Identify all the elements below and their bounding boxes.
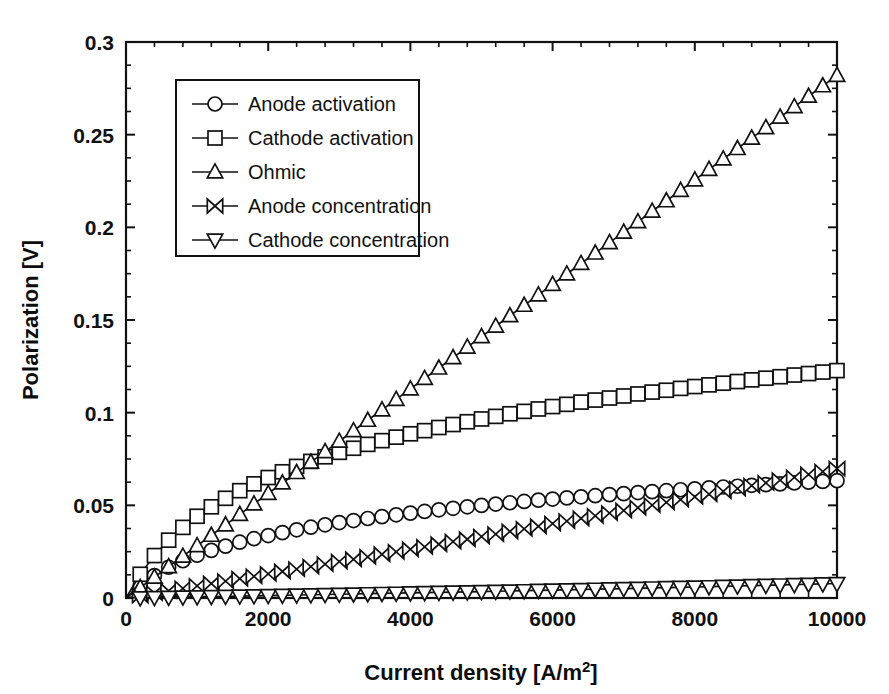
data-marker xyxy=(489,497,503,511)
data-marker xyxy=(617,487,631,501)
data-marker xyxy=(389,430,403,444)
data-marker xyxy=(759,371,773,385)
data-marker xyxy=(204,500,218,514)
y-tick-label: 0.25 xyxy=(73,124,114,147)
x-tick-label: 0 xyxy=(120,607,132,630)
data-marker xyxy=(659,484,673,498)
data-marker xyxy=(787,368,801,382)
x-tick-label: 4000 xyxy=(387,607,434,630)
legend-label: Cathode concentration xyxy=(248,229,449,251)
data-marker xyxy=(702,378,716,392)
data-marker xyxy=(375,434,389,448)
data-marker xyxy=(730,375,744,389)
data-marker xyxy=(489,409,503,423)
data-marker xyxy=(830,364,844,378)
data-marker xyxy=(517,494,531,508)
data-marker xyxy=(631,387,645,401)
x-axis-title: Current density [A/m2] xyxy=(364,658,597,685)
data-marker xyxy=(347,441,361,455)
x-tick-label: 2000 xyxy=(245,607,292,630)
data-marker xyxy=(460,415,474,429)
data-marker xyxy=(830,474,844,488)
data-marker xyxy=(588,489,602,503)
data-marker xyxy=(375,510,389,524)
data-marker xyxy=(475,412,489,426)
data-marker xyxy=(816,365,830,379)
data-marker xyxy=(602,488,616,502)
data-marker xyxy=(147,549,161,563)
data-marker xyxy=(347,514,361,528)
data-marker xyxy=(617,389,631,403)
y-tick-label: 0 xyxy=(102,587,114,610)
data-marker xyxy=(190,509,204,523)
data-marker xyxy=(503,407,517,421)
data-marker xyxy=(645,485,659,499)
data-marker xyxy=(574,395,588,409)
data-marker xyxy=(546,492,560,506)
data-marker xyxy=(318,518,332,532)
data-marker xyxy=(574,490,588,504)
data-marker xyxy=(247,532,261,546)
data-marker xyxy=(219,539,233,553)
data-marker xyxy=(247,477,261,491)
data-marker xyxy=(176,520,190,534)
data-marker xyxy=(716,376,730,390)
data-marker xyxy=(275,526,289,540)
legend-label: Cathode activation xyxy=(248,127,414,149)
data-marker xyxy=(219,491,233,505)
legend-label: Anode concentration xyxy=(248,195,431,217)
x-tick-label: 8000 xyxy=(671,607,718,630)
y-tick-label: 0.05 xyxy=(73,494,114,517)
data-marker xyxy=(631,486,645,500)
y-axis-title: Polarization [V] xyxy=(18,240,43,400)
data-marker xyxy=(588,393,602,407)
data-marker xyxy=(418,504,432,518)
polarization-chart: 0200040006000800010000 00.050.10.150.20.… xyxy=(0,0,889,694)
data-marker xyxy=(503,496,517,510)
data-marker xyxy=(517,404,531,418)
data-marker xyxy=(773,370,787,384)
data-marker xyxy=(688,380,702,394)
data-marker xyxy=(403,427,417,441)
data-marker xyxy=(432,503,446,517)
data-marker xyxy=(403,506,417,520)
data-marker xyxy=(162,533,176,547)
data-marker xyxy=(304,520,318,534)
data-marker xyxy=(233,484,247,498)
data-marker xyxy=(290,523,304,537)
data-marker xyxy=(546,400,560,414)
y-tick-label: 0.3 xyxy=(85,31,114,54)
data-marker xyxy=(560,491,574,505)
data-marker xyxy=(233,535,247,549)
data-marker xyxy=(361,437,375,451)
data-marker xyxy=(432,420,446,434)
data-marker xyxy=(674,381,688,395)
data-marker xyxy=(332,516,346,530)
data-marker xyxy=(261,471,275,485)
data-marker xyxy=(602,391,616,405)
data-marker xyxy=(645,385,659,399)
chart-legend: Anode activationCathode activationOhmicA… xyxy=(176,80,449,256)
data-marker xyxy=(204,543,218,557)
data-marker xyxy=(389,508,403,522)
data-marker xyxy=(446,418,460,432)
data-marker xyxy=(446,501,460,515)
y-tick-label: 0.2 xyxy=(85,216,114,239)
legend-label: Anode activation xyxy=(248,93,396,115)
data-marker xyxy=(802,367,816,381)
legend-label: Ohmic xyxy=(248,161,306,183)
data-marker xyxy=(560,397,574,411)
data-marker xyxy=(208,131,222,145)
data-marker xyxy=(208,97,222,111)
y-tick-label: 0.1 xyxy=(85,402,115,425)
data-marker xyxy=(659,383,673,397)
data-marker xyxy=(361,511,375,525)
data-marker xyxy=(745,373,759,387)
y-tick-label: 0.15 xyxy=(73,309,114,332)
data-marker xyxy=(460,500,474,514)
x-tick-label: 10000 xyxy=(808,607,866,630)
data-marker xyxy=(531,402,545,416)
data-marker xyxy=(418,424,432,438)
data-marker xyxy=(531,493,545,507)
x-tick-label: 6000 xyxy=(529,607,576,630)
